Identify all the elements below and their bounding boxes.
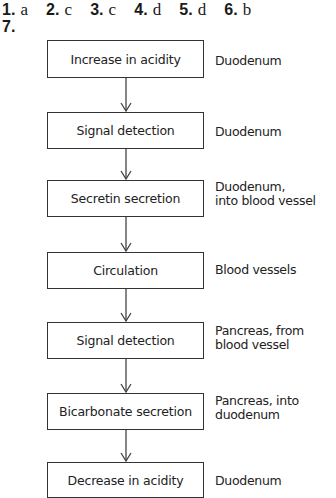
- flow-step-signal-detection-pancreas: Signal detection: [47, 322, 204, 359]
- answer-6: 6. b: [224, 0, 251, 20]
- answer-4: 4. d: [134, 0, 161, 20]
- location-label-3: Duodenum,into blood vessel: [215, 180, 316, 208]
- arrow-down-icon: [121, 313, 131, 321]
- location-label-6: Pancreas, intoduodenum: [215, 394, 299, 422]
- answer-1: 1. a: [2, 0, 28, 20]
- location-label-1: Duodenum: [215, 54, 281, 68]
- answer-key-row: 1. a 2. c 3. c 4. d 5. d 6. b: [2, 0, 264, 20]
- flow-step-secretin-secretion: Secretin secretion: [47, 180, 204, 217]
- flow-step-signal-detection-duodenum: Signal detection: [47, 112, 204, 149]
- answer-2: 2. c: [46, 0, 72, 20]
- flow-step-increase-acidity: Increase in acidity: [47, 40, 204, 78]
- arrow-down-icon: [121, 103, 131, 111]
- arrow-down-icon: [121, 453, 131, 461]
- answer-3: 3. c: [90, 0, 116, 20]
- arrow-down-icon: [121, 384, 131, 392]
- flow-step-circulation: Circulation: [47, 252, 204, 289]
- flow-step-bicarbonate-secretion: Bicarbonate secretion: [47, 393, 204, 430]
- location-label-4: Blood vessels: [215, 263, 296, 277]
- question-7-number: 7.: [2, 18, 15, 36]
- location-label-5: Pancreas, fromblood vessel: [215, 324, 304, 352]
- arrow-down-icon: [121, 171, 131, 179]
- flow-step-decrease-acidity: Decrease in acidity: [47, 462, 204, 498]
- location-label-2: Duodenum: [215, 125, 281, 139]
- arrow-down-icon: [121, 243, 131, 251]
- location-label-7: Duodenum: [215, 474, 281, 488]
- answer-5: 5. d: [179, 0, 206, 20]
